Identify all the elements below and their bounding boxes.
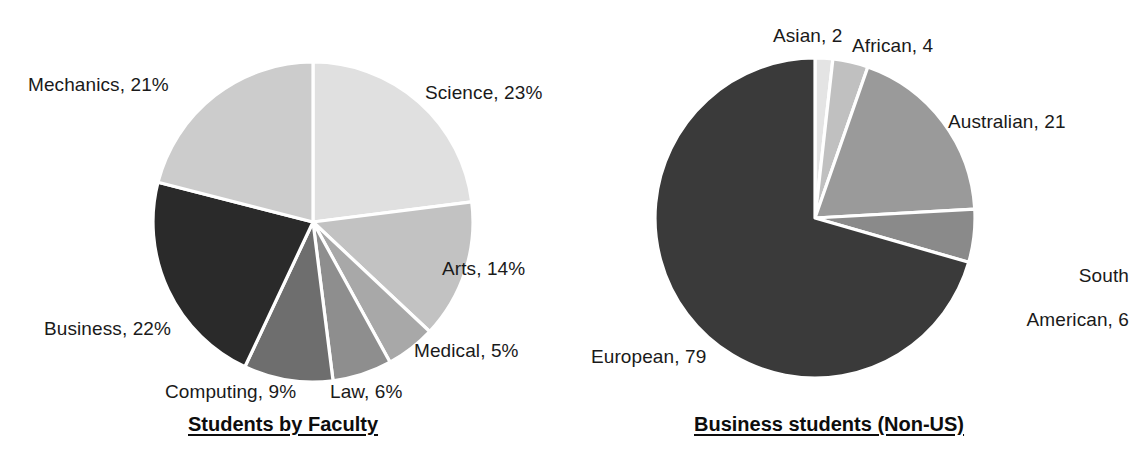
slice-label-arts: Arts, 14% xyxy=(442,258,525,280)
chart-panel-business-students-non-us: Asian, 2 African, 4 Australian, 21 South… xyxy=(567,0,1134,474)
slice-label-south-american-line1: South xyxy=(1079,265,1129,286)
slice-label-mechanics: Mechanics, 21% xyxy=(28,74,169,96)
slice-label-business: Business, 22% xyxy=(44,318,171,340)
slice-label-south-american: South American, 6 xyxy=(877,243,1129,353)
slice-label-law: Law, 6% xyxy=(330,381,403,403)
slice-label-computing: Computing, 9% xyxy=(165,381,296,403)
slice-label-south-american-line2: American, 6 xyxy=(1027,309,1129,330)
slice-label-african: African, 4 xyxy=(852,35,933,57)
chart-title-left: Students by Faculty xyxy=(188,413,378,436)
chart-panel-students-by-faculty: Mechanics, 21% Science, 23% Arts, 14% Me… xyxy=(0,0,567,474)
slice-label-european: European, 79 xyxy=(591,346,706,368)
slice-label-science: Science, 23% xyxy=(425,82,542,104)
slice-label-australian: Australian, 21 xyxy=(948,111,1066,133)
figure-root: Mechanics, 21% Science, 23% Arts, 14% Me… xyxy=(0,0,1134,474)
chart-title-right: Business students (Non-US) xyxy=(694,413,964,436)
slice-label-asian: Asian, 2 xyxy=(773,25,842,47)
slice-label-medical: Medical, 5% xyxy=(414,340,519,362)
